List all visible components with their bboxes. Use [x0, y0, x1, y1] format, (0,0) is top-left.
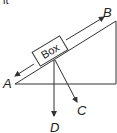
cropped-header-text: it [3, 0, 9, 6]
inclined-plane-diagram: it Box A B C D [0, 0, 117, 133]
arrow-b [66, 17, 104, 40]
ramp-slope [15, 21, 116, 84]
box: Box [32, 36, 68, 66]
arrow-c [55, 60, 77, 102]
ramp-triangle [15, 21, 116, 84]
label-a: A [2, 76, 12, 91]
label-d: D [50, 120, 59, 133]
label-b: B [103, 5, 112, 20]
label-c: C [77, 103, 87, 118]
